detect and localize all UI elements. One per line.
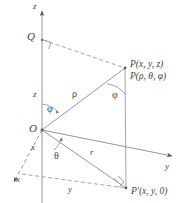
point-dot-p [124, 67, 127, 70]
point-dot-origin [41, 129, 44, 132]
point-dot-pprime [125, 187, 128, 190]
segment-label-r: r [90, 148, 94, 157]
point-dot-q [41, 39, 43, 41]
segment-label-y-component: y [68, 185, 72, 194]
point-label-p-cartesian: P(x, y, z) [130, 60, 163, 70]
angle-label-theta: θ [54, 151, 59, 161]
segment-p-to-pprime-vertical [125, 68, 126, 188]
spherical-coordinates-diagram: z Q P(x, y, z) P(ρ, θ, φ) z ρ φ φ O x θ … [0, 0, 186, 203]
right-angle-mark-at-pprime [118, 176, 124, 186]
y-axis-label: y [165, 162, 169, 171]
angle-label-phi-origin: φ [47, 104, 53, 114]
angle-label-phi-point: φ [112, 90, 118, 100]
z-axis-label: z [33, 2, 37, 11]
angle-arc-theta [54, 138, 61, 150]
point-label-p-spherical: P(ρ, θ, φ) [130, 72, 166, 82]
point-label-q: Q [27, 31, 35, 42]
right-angle-mark-at-q [44, 40, 51, 49]
segment-label-x-component: x [31, 143, 35, 152]
point-label-pprime: P′(x, y, 0) [131, 187, 167, 197]
segment-label-z-height: z [33, 90, 37, 99]
segment-y-component-dashed [22, 174, 126, 188]
x-axis-label: x [16, 175, 20, 184]
segment-q-to-p-dashed [43, 40, 125, 68]
point-label-origin: O [29, 123, 37, 134]
segment-label-rho: ρ [72, 89, 77, 99]
